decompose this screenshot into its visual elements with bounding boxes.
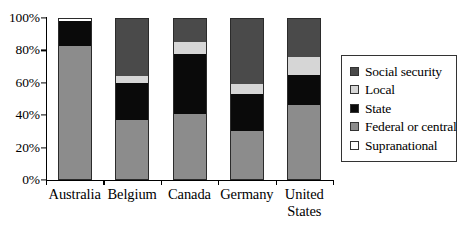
bar-segment-federal-or-central xyxy=(230,131,264,180)
bar-belgium xyxy=(115,18,149,180)
legend-item-federal-or-central[interactable]: Federal or central xyxy=(350,118,449,137)
legend-item-social-security[interactable]: Social security xyxy=(350,62,449,81)
legend-item-supranational[interactable]: Supranational xyxy=(350,136,449,155)
bar-segment-state xyxy=(287,75,321,106)
legend-swatch-icon xyxy=(350,104,359,113)
x-axis-tick-mark xyxy=(46,180,47,185)
plot-area: 0%20%40%60%80%100% xyxy=(46,18,333,180)
legend-item-label: Supranational xyxy=(365,139,437,153)
y-axis-tick-mark xyxy=(41,147,46,148)
bar-segment-local xyxy=(287,57,321,75)
stacked-bar-chart: 0%20%40%60%80%100% Social securityLocalS… xyxy=(0,0,464,237)
bar-segment-state xyxy=(58,21,92,45)
x-axis-tick-mark xyxy=(161,180,162,185)
legend-swatch-icon xyxy=(350,67,359,76)
bar-segment-state xyxy=(115,83,149,120)
legend-item-label: State xyxy=(365,102,391,116)
bar-segment-federal-or-central xyxy=(173,114,207,180)
bar-segment-state xyxy=(230,94,264,131)
bar-segment-federal-or-central xyxy=(115,120,149,180)
bar-segment-state xyxy=(173,54,207,114)
legend-swatch-icon xyxy=(350,122,359,131)
y-axis-tick-mark xyxy=(41,115,46,116)
bar-segment-federal-or-central xyxy=(287,105,321,180)
legend-swatch-icon xyxy=(350,141,359,150)
bar-segment-local xyxy=(173,42,207,53)
x-axis-tick-mark xyxy=(333,180,334,185)
bar-canada xyxy=(173,18,207,180)
bar-segment-federal-or-central xyxy=(58,46,92,180)
x-axis-tick-mark xyxy=(276,180,277,185)
bar-germany xyxy=(230,18,264,180)
bar-segment-social-security xyxy=(173,18,207,42)
legend-swatch-icon xyxy=(350,85,359,94)
chart-legend: Social securityLocalStateFederal or cent… xyxy=(341,55,457,162)
bar-segment-social-security xyxy=(230,18,264,84)
bar-australia xyxy=(58,18,92,180)
legend-item-state[interactable]: State xyxy=(350,99,449,118)
x-axis-tick-mark xyxy=(218,180,219,185)
bar-segment-local xyxy=(230,84,264,94)
y-axis-tick-mark xyxy=(41,50,46,51)
x-axis-line xyxy=(46,180,333,181)
y-axis-tick-mark xyxy=(41,17,46,18)
legend-item-label: Local xyxy=(365,83,395,97)
x-axis-tick-mark xyxy=(103,180,104,185)
legend-item-label: Federal or central xyxy=(365,120,457,134)
bar-segment-social-security xyxy=(287,18,321,57)
x-axis-label: UnitedStates xyxy=(256,186,352,220)
bar-united-states xyxy=(287,18,321,180)
y-axis-tick-mark xyxy=(41,82,46,83)
bar-segment-social-security xyxy=(115,18,149,76)
legend-item-local[interactable]: Local xyxy=(350,81,449,100)
legend-item-label: Social security xyxy=(365,65,442,79)
